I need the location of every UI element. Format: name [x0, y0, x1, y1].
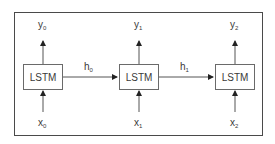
lstm-cell-0: LSTM — [23, 64, 63, 90]
lstm-cell-label: LSTM — [30, 72, 57, 83]
input-label-x1: x1 — [134, 118, 142, 131]
output-label-y0: y0 — [38, 20, 46, 33]
output-label-y2: y2 — [230, 20, 238, 33]
lstm-cell-1: LSTM — [119, 64, 159, 90]
lstm-cell-label: LSTM — [222, 72, 249, 83]
output-label-y1: y1 — [134, 20, 142, 33]
lstm-cell-2: LSTM — [215, 64, 255, 90]
input-label-x0: x0 — [38, 118, 46, 131]
input-label-x2: x2 — [230, 118, 238, 131]
hidden-label-h0: h0 — [84, 62, 93, 75]
lstm-cell-label: LSTM — [126, 72, 153, 83]
hidden-label-h1: h1 — [180, 62, 189, 75]
